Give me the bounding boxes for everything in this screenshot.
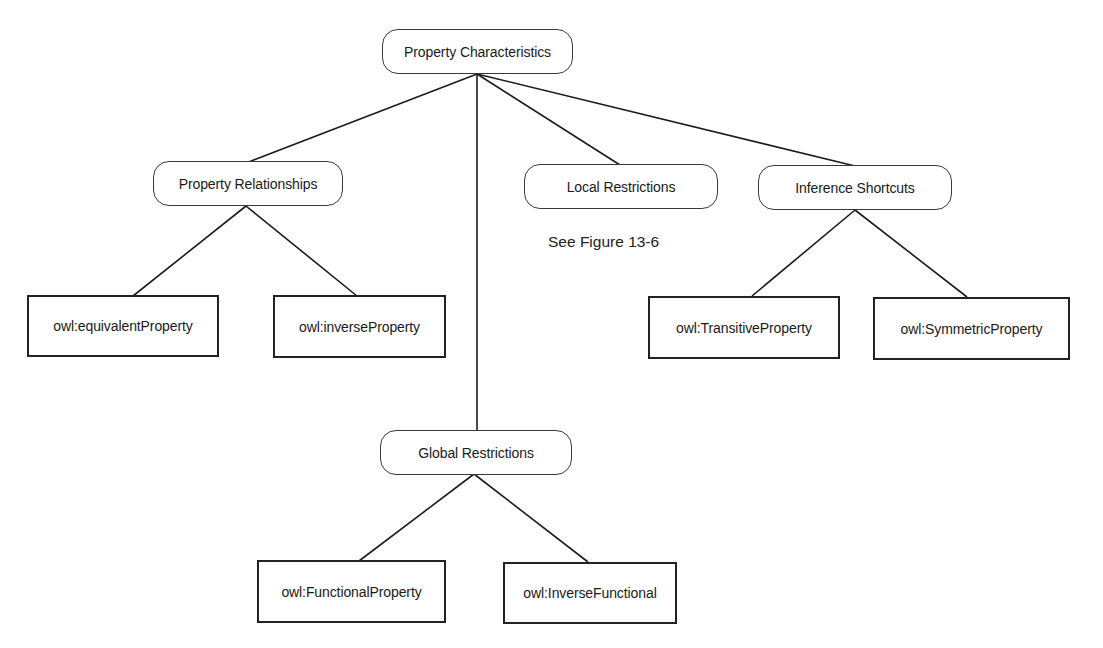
node-functional-property: owl:FunctionalProperty — [257, 560, 446, 623]
edge-global-restrictions-to-functional-property — [359, 474, 474, 561]
edge-root-to-inference-shortcuts — [477, 74, 855, 166]
node-label: owl:TransitiveProperty — [676, 320, 812, 336]
node-equivalent-property: owl:equivalentProperty — [27, 295, 219, 357]
node-global-restrictions: Global Restrictions — [380, 430, 572, 475]
node-label: owl:SymmetricProperty — [901, 321, 1043, 337]
node-label: Property Characteristics — [404, 44, 551, 60]
property-characteristics-diagram: Property Characteristics Property Relati… — [0, 0, 1103, 648]
node-property-characteristics: Property Characteristics — [382, 29, 573, 74]
node-label: Global Restrictions — [418, 445, 534, 461]
node-label: owl:inverseProperty — [299, 319, 420, 335]
edge-root-to-local-restrictions — [477, 74, 620, 165]
node-label: Property Relationships — [179, 176, 318, 192]
node-inverse-property: owl:inverseProperty — [273, 295, 446, 358]
node-label: Inference Shortcuts — [795, 180, 915, 196]
node-inverse-functional: owl:InverseFunctional — [503, 562, 677, 624]
edge-inference-shortcuts-to-symmetric-property — [855, 210, 967, 297]
node-label: owl:InverseFunctional — [523, 585, 656, 601]
edge-global-restrictions-to-inverse-functional — [474, 474, 588, 562]
edge-inference-shortcuts-to-transitive-property — [752, 210, 855, 296]
node-label: owl:FunctionalProperty — [281, 584, 421, 600]
node-transitive-property: owl:TransitiveProperty — [648, 296, 840, 359]
edge-root-to-property-relationships — [246, 74, 477, 163]
node-label: owl:equivalentProperty — [53, 318, 192, 334]
node-symmetric-property: owl:SymmetricProperty — [873, 297, 1070, 360]
node-inference-shortcuts: Inference Shortcuts — [758, 165, 952, 210]
node-local-restrictions: Local Restrictions — [524, 164, 718, 209]
node-label: Local Restrictions — [567, 179, 676, 195]
local-restrictions-note: See Figure 13-6 — [548, 233, 659, 251]
edge-property-relationships-to-equivalent-property — [133, 206, 246, 296]
edge-property-relationships-to-inverse-property — [246, 206, 357, 296]
node-property-relationships: Property Relationships — [153, 161, 343, 206]
